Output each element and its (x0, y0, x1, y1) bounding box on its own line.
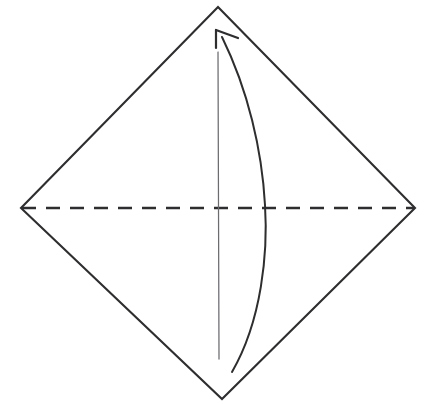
diagram-background (0, 0, 433, 404)
origami-diagram-canvas: Origami fold step diagram Square sheet s… (0, 0, 433, 404)
origami-diagram-svg: Origami fold step diagram Square sheet s… (0, 0, 433, 404)
